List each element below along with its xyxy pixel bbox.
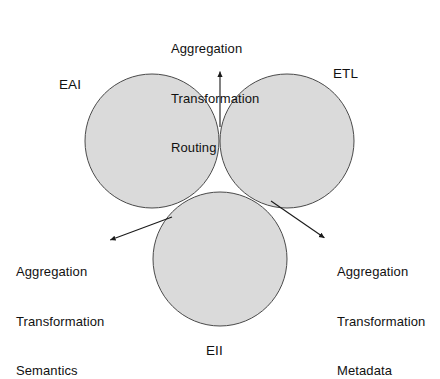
callout-top-line-3: Routing [171, 140, 259, 157]
callout-top-line-2: Transformation [171, 91, 259, 108]
callout-top: Aggregation Transformation Routing [171, 8, 259, 190]
callout-right-line-1: Aggregation [337, 264, 425, 281]
callout-left: Aggregation Transformation Semantics [16, 231, 104, 379]
callout-right: Aggregation Transformation Metadata [337, 231, 425, 379]
callout-right-line-2: Transformation [337, 314, 425, 331]
set-label-etl: ETL [333, 66, 358, 82]
callout-left-line-3: Semantics [16, 363, 104, 379]
callout-right-line-3: Metadata [337, 363, 425, 379]
circle-eii [153, 192, 287, 326]
callout-left-line-1: Aggregation [16, 264, 104, 281]
set-label-eii: EII [206, 343, 223, 359]
callout-left-line-2: Transformation [16, 314, 104, 331]
set-label-eai: EAI [59, 77, 81, 93]
callout-top-line-1: Aggregation [171, 41, 259, 58]
